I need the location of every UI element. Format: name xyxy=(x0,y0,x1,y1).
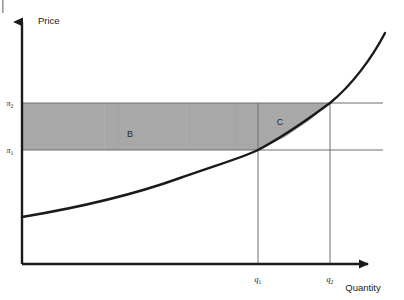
x-tick-label-quantity-high: q2 xyxy=(327,275,334,285)
diagram-canvas: Price Quantity π2 π1 q1 q2 B C xyxy=(0,0,404,300)
page-edge-mark xyxy=(2,0,4,13)
supply-curve-diagram: Price Quantity π2 π1 q1 q2 B C xyxy=(0,0,404,300)
y-axis-title: Price xyxy=(38,15,60,26)
price-high-subscript: 2 xyxy=(11,103,14,109)
x-tick-label-quantity-low: q1 xyxy=(255,275,262,285)
price-low-subscript: 1 xyxy=(11,150,14,156)
y-tick-label-price-low: π1 xyxy=(7,146,14,156)
shaded-band xyxy=(22,103,332,150)
y-tick-label-price-high: π2 xyxy=(7,99,14,109)
quantity-high-subscript: 2 xyxy=(331,279,334,285)
region-label-c: C xyxy=(277,117,284,127)
quantity-low-subscript: 1 xyxy=(259,279,262,285)
x-axis-title: Quantity xyxy=(345,282,381,293)
region-label-b: B xyxy=(127,129,133,139)
